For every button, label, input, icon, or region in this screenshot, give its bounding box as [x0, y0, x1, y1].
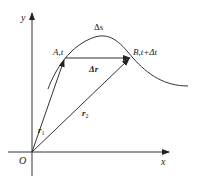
origin-label: O: [19, 155, 26, 166]
point-a-label: A,t: [52, 47, 64, 57]
y-axis-label: y: [20, 12, 26, 23]
trajectory-curve: [48, 36, 188, 89]
kinematics-diagram: y x O A,t B,t+Δt Δs Δr r1 r2: [0, 0, 198, 188]
path-length-label: Δs: [94, 22, 104, 32]
displacement-label: Δr: [88, 64, 99, 74]
vector-r2: [32, 59, 129, 152]
vector-r1: [32, 60, 64, 152]
x-axis-label: x: [160, 156, 166, 167]
r1-label: r1: [38, 125, 45, 136]
point-b-label: B,t+Δt: [133, 47, 158, 57]
r2-label: r2: [82, 108, 89, 119]
